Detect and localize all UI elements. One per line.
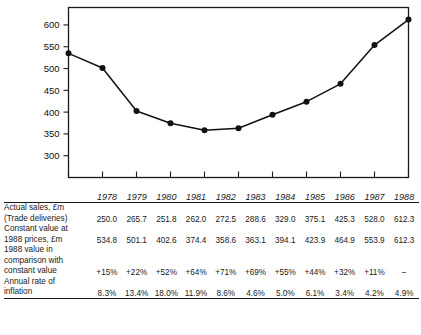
cell-1982: 8.6% <box>211 277 241 299</box>
data-point-1981 <box>168 120 174 126</box>
cell-1981: 374.4 <box>181 224 211 245</box>
year-header-1986: 1986 <box>330 188 360 203</box>
year-header-1979: 1979 <box>122 188 152 203</box>
cell-1988: – <box>389 245 419 277</box>
cell-1983: 288.6 <box>241 203 271 224</box>
table-rule-bottom-cell <box>4 298 419 299</box>
cell-1978: 250.0 <box>92 203 122 224</box>
cell-1984: 329.0 <box>270 203 300 224</box>
cell-1987: 553.9 <box>360 224 390 245</box>
row-label-line: 1988 prices, £m <box>4 235 92 246</box>
y-tick-label-450: 450 <box>44 85 60 96</box>
cell-1984: +55% <box>270 245 300 277</box>
data-point-1984 <box>270 112 276 118</box>
cell-1986: 3.4% <box>330 277 360 299</box>
data-table-container: 1978197919801981198219831984198519861987… <box>0 188 421 335</box>
cell-1978: 8.3% <box>92 277 122 299</box>
y-tick-label-400: 400 <box>44 107 60 118</box>
cell-1987: 4.2% <box>360 277 390 299</box>
cell-1985: +44% <box>300 245 330 277</box>
cell-1978: +15% <box>92 245 122 277</box>
y-tick-label-550: 550 <box>44 41 60 52</box>
data-point-1982 <box>202 127 208 133</box>
cell-1979: 501.1 <box>122 224 152 245</box>
cell-1986: +32% <box>330 245 360 277</box>
cell-1980: 402.6 <box>152 224 182 245</box>
cell-1983: 4.6% <box>241 277 271 299</box>
row-label-line: 1988 value in <box>4 245 92 256</box>
table-row: Actual sales, £m(Trade deliveries)250.02… <box>4 203 419 224</box>
year-header-1985: 1985 <box>300 188 330 203</box>
cell-1987: 528.0 <box>360 203 390 224</box>
cell-1988: 612.3 <box>389 203 419 224</box>
table-rule-bottom <box>4 298 419 299</box>
data-point-1983 <box>236 125 242 131</box>
cell-1983: +69% <box>241 245 271 277</box>
year-header-1978: 1978 <box>92 188 122 203</box>
cell-1980: 18.0% <box>152 277 182 299</box>
data-point-1979 <box>100 65 106 71</box>
table-head: 1978197919801981198219831984198519861987… <box>4 188 419 203</box>
table-row: Annual rate ofinflation8.3%13.4%18.0%11.… <box>4 277 419 299</box>
year-header-1981: 1981 <box>181 188 211 203</box>
table-row: 1988 value incomparison withconstant val… <box>4 245 419 277</box>
data-point-1988 <box>406 17 412 23</box>
table-foot <box>4 298 419 299</box>
cell-1979: 265.7 <box>122 203 152 224</box>
cell-1985: 423.9 <box>300 224 330 245</box>
row-label-line: inflation <box>4 287 92 298</box>
cell-1986: 425.3 <box>330 203 360 224</box>
table-body: Actual sales, £m(Trade deliveries)250.02… <box>4 203 419 298</box>
cell-1979: 13.4% <box>122 277 152 299</box>
row-label-line: comparison with <box>4 256 92 267</box>
cell-1984: 5.0% <box>270 277 300 299</box>
table-row: Constant value at1988 prices, £m534.8501… <box>4 224 419 245</box>
row-label-line: Constant value at <box>4 224 92 235</box>
data-table: 1978197919801981198219831984198519861987… <box>4 188 419 299</box>
cell-1982: 272.5 <box>211 203 241 224</box>
year-header-1980: 1980 <box>152 188 182 203</box>
sales-line-chart: 600550500450400350300 <box>0 0 421 190</box>
row-label-line: Actual sales, £m <box>4 203 92 214</box>
row-label: Actual sales, £m(Trade deliveries) <box>4 203 92 224</box>
y-axis-tick-labels: 600550500450400350300 <box>44 19 60 161</box>
cell-1978: 534.8 <box>92 224 122 245</box>
row-label: 1988 value incomparison withconstant val… <box>4 245 92 277</box>
data-point-1986 <box>338 81 344 87</box>
chart-svg: 600550500450400350300 <box>0 0 421 190</box>
data-point-1987 <box>372 42 378 48</box>
table-corner-cell <box>4 188 92 203</box>
row-label-line: Annual rate of <box>4 277 92 288</box>
cell-1980: +52% <box>152 245 182 277</box>
cell-1988: 4.9% <box>389 277 419 299</box>
data-point-1980 <box>134 108 140 114</box>
cell-1987: +11% <box>360 245 390 277</box>
year-header-1988: 1988 <box>389 188 419 203</box>
cell-1981: 262.0 <box>181 203 211 224</box>
data-point-1978 <box>66 50 72 56</box>
cell-1984: 394.1 <box>270 224 300 245</box>
cell-1985: 6.1% <box>300 277 330 299</box>
row-label: Constant value at1988 prices, £m <box>4 224 92 245</box>
year-header-1983: 1983 <box>241 188 271 203</box>
y-axis-ticks <box>64 25 69 156</box>
y-tick-label-500: 500 <box>44 63 60 74</box>
cell-1988: 612.3 <box>389 224 419 245</box>
cell-1985: 375.1 <box>300 203 330 224</box>
cell-1979: +22% <box>122 245 152 277</box>
cell-1986: 464.9 <box>330 224 360 245</box>
year-header-row: 1978197919801981198219831984198519861987… <box>4 188 419 203</box>
plot-frame <box>69 8 409 178</box>
year-header-1984: 1984 <box>270 188 300 203</box>
cell-1981: 11.9% <box>181 277 211 299</box>
row-label: Annual rate ofinflation <box>4 277 92 299</box>
year-header-1982: 1982 <box>211 188 241 203</box>
y-tick-label-600: 600 <box>44 19 60 30</box>
cell-1982: 358.6 <box>211 224 241 245</box>
year-header-1987: 1987 <box>360 188 390 203</box>
y-tick-label-350: 350 <box>44 128 60 139</box>
row-label-line: constant value <box>4 266 92 277</box>
cell-1982: +71% <box>211 245 241 277</box>
cell-1980: 251.8 <box>152 203 182 224</box>
y-tick-label-300: 300 <box>44 150 60 161</box>
